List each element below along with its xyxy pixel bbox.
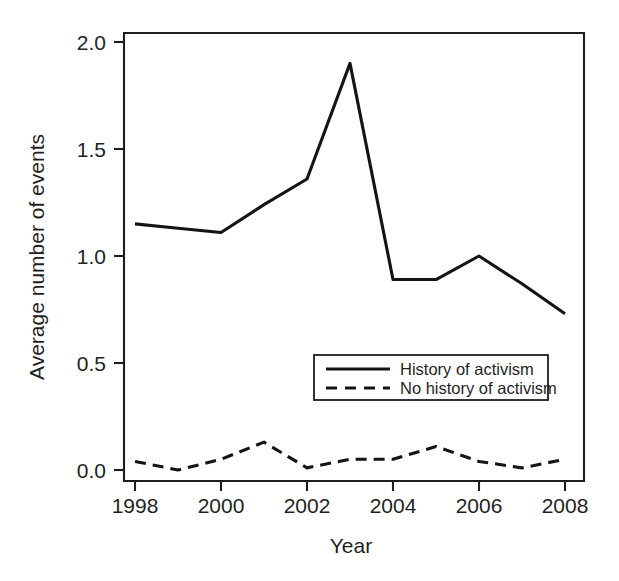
x-tick-label-2004: 2004 xyxy=(370,494,417,517)
y-tick-label-0-5: 0.5 xyxy=(77,352,106,375)
x-axis-title: Year xyxy=(330,534,372,557)
y-axis-title: Average number of events xyxy=(25,134,48,380)
x-axis-ticks xyxy=(135,481,565,491)
chart-canvas: 2.0 1.5 1.0 0.5 0.0 1998 2000 2002 2004 … xyxy=(0,0,619,581)
y-axis-ticks xyxy=(114,42,124,470)
x-tick-label-2008: 2008 xyxy=(542,494,589,517)
chart-legend: History of activism No history of activi… xyxy=(314,355,557,400)
plot-frame xyxy=(124,33,584,481)
x-tick-label-2002: 2002 xyxy=(284,494,331,517)
legend-label-no-history-of-activism: No history of activism xyxy=(400,379,557,397)
y-tick-label-1-0: 1.0 xyxy=(77,245,106,268)
y-tick-label-1-5: 1.5 xyxy=(77,138,106,161)
y-tick-label-0-0: 0.0 xyxy=(77,459,106,482)
y-axis-tick-labels: 2.0 1.5 1.0 0.5 0.0 xyxy=(77,31,106,482)
x-tick-label-1998: 1998 xyxy=(112,494,159,517)
series-line-history-of-activism xyxy=(135,63,565,313)
y-tick-label-2-0: 2.0 xyxy=(77,31,106,54)
x-axis-tick-labels: 1998 2000 2002 2004 2006 2008 xyxy=(112,494,589,517)
legend-label-history-of-activism: History of activism xyxy=(400,360,534,378)
x-tick-label-2000: 2000 xyxy=(198,494,245,517)
chart-figure: 2.0 1.5 1.0 0.5 0.0 1998 2000 2002 2004 … xyxy=(0,0,619,581)
series-line-no-history-of-activism xyxy=(135,442,565,470)
x-tick-label-2006: 2006 xyxy=(456,494,503,517)
